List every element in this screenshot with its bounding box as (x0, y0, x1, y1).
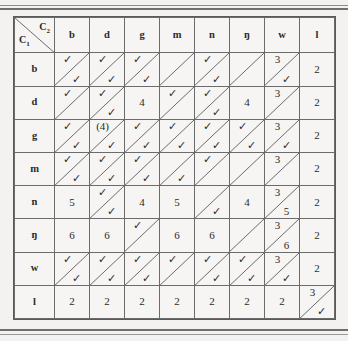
cell-upper-value: ✓ (127, 154, 148, 165)
matrix-cell-ŋ-w[interactable]: 36 (265, 219, 300, 252)
matrix-cell-l-g[interactable]: 2 (125, 285, 160, 318)
matrix-cell-d-w[interactable]: 3 (265, 86, 300, 119)
cell-diagonal-divider (230, 219, 264, 251)
matrix-cell-b-m[interactable] (160, 53, 195, 86)
cell-upper-value: ✓ (92, 254, 113, 265)
row-header-w: w (15, 252, 55, 285)
matrix-cell-b-d[interactable]: ✓✓ (90, 53, 125, 86)
cell-upper-value: ✓ (57, 121, 78, 132)
cell-upper-value: ✓ (162, 254, 183, 265)
matrix-cell-w-g[interactable]: ✓✓ (125, 252, 160, 285)
cell-upper-value: ✓ (57, 154, 78, 165)
matrix-cell-g-n[interactable]: ✓✓ (195, 119, 230, 152)
matrix-cell-g-g[interactable]: ✓✓ (125, 119, 160, 152)
matrix-cell-n-ŋ[interactable]: 4 (230, 186, 265, 219)
matrix-cell-ŋ-ŋ[interactable] (230, 219, 265, 252)
matrix-cell-ŋ-n[interactable]: 6 (195, 219, 230, 252)
cell-value: 4 (139, 196, 145, 208)
cell-lower-value: ✓ (241, 140, 262, 151)
matrix-cell-l-ŋ[interactable]: 2 (230, 285, 265, 318)
column-variable-label: C2 (39, 22, 50, 35)
cell-value: 5 (69, 196, 75, 208)
matrix-cell-d-d[interactable]: ✓✓ (90, 86, 125, 119)
matrix-cell-l-w[interactable]: 2 (265, 285, 300, 318)
matrix-cell-m-m[interactable]: ✓ (160, 152, 195, 185)
table-row: g✓✓(4)✓✓✓✓✓✓✓✓✓3✓2 (15, 119, 335, 152)
cell-upper-value: ✓ (127, 254, 148, 265)
matrix-cell-w-d[interactable]: ✓✓ (90, 252, 125, 285)
matrix-cell-ŋ-b[interactable]: 6 (55, 219, 90, 252)
matrix-cell-n-w[interactable]: 35 (265, 186, 300, 219)
cell-lower-value: ✓ (136, 273, 157, 284)
matrix-cell-m-n[interactable]: ✓ (195, 152, 230, 185)
cell-lower-value: ✓ (101, 173, 122, 184)
row-header-m: m (15, 152, 55, 185)
matrix-cell-b-w[interactable]: 3✓ (265, 53, 300, 86)
page-rule-bottom-thin (0, 334, 348, 335)
matrix-cell-g-m[interactable]: ✓✓ (160, 119, 195, 152)
matrix-cell-l-b[interactable]: 2 (55, 285, 90, 318)
matrix-cell-d-m[interactable]: ✓ (160, 86, 195, 119)
cell-lower-value: ✓ (311, 306, 332, 317)
cell-lower-value: ✓ (206, 74, 227, 85)
matrix-cell-n-l[interactable]: 2 (300, 186, 335, 219)
matrix-cell-n-g[interactable]: 4 (125, 186, 160, 219)
matrix-cell-b-n[interactable]: ✓✓ (195, 53, 230, 86)
column-header-d: d (90, 18, 125, 53)
matrix-cell-l-l[interactable]: 3✓ (300, 285, 335, 318)
cell-upper-value: ✓ (232, 121, 253, 132)
matrix-cell-d-ŋ[interactable]: 4 (230, 86, 265, 119)
matrix-cell-b-l[interactable]: 2 (300, 53, 335, 86)
cell-value: 4 (139, 96, 145, 108)
matrix-cell-g-b[interactable]: ✓✓ (55, 119, 90, 152)
matrix-cell-g-w[interactable]: 3✓ (265, 119, 300, 152)
matrix-cell-w-m[interactable]: ✓ (160, 252, 195, 285)
matrix-cell-ŋ-g[interactable]: ✓ (125, 219, 160, 252)
cell-value: 2 (209, 295, 215, 307)
matrix-cell-ŋ-m[interactable]: 6 (160, 219, 195, 252)
cell-value: 2 (104, 295, 110, 307)
matrix-cell-m-l[interactable]: 2 (300, 152, 335, 185)
matrix-cell-m-d[interactable]: ✓✓ (90, 152, 125, 185)
matrix-cell-m-b[interactable]: ✓✓ (55, 152, 90, 185)
cell-lower-value: ✓ (101, 206, 122, 217)
cell-upper-value: ✓ (127, 54, 148, 65)
matrix-cell-l-d[interactable]: 2 (90, 285, 125, 318)
cell-lower-value: ✓ (136, 74, 157, 85)
row-header-g: g (15, 119, 55, 152)
matrix-cell-w-l[interactable]: 2 (300, 252, 335, 285)
cell-upper-value: 3 (267, 187, 288, 198)
matrix-cell-w-n[interactable]: ✓✓ (195, 252, 230, 285)
matrix-cell-l-n[interactable]: 2 (195, 285, 230, 318)
cell-upper-value: 3 (267, 254, 288, 265)
table-row: w✓✓✓✓✓✓✓✓✓✓✓3✓2 (15, 252, 335, 285)
matrix-cell-n-m[interactable]: 5 (160, 186, 195, 219)
page-rule-bottom-thick (0, 329, 348, 331)
matrix-cell-ŋ-d[interactable]: 6 (90, 219, 125, 252)
matrix-cell-g-d[interactable]: (4)✓ (90, 119, 125, 152)
matrix-cell-m-ŋ[interactable] (230, 152, 265, 185)
matrix-cell-m-g[interactable]: ✓✓ (125, 152, 160, 185)
matrix-cell-l-m[interactable]: 2 (160, 285, 195, 318)
matrix-cell-b-ŋ[interactable] (230, 53, 265, 86)
matrix-cell-w-w[interactable]: 3✓ (265, 252, 300, 285)
cell-value: 2 (174, 295, 180, 307)
cell-lower-value: ✓ (276, 140, 297, 151)
matrix-cell-n-d[interactable]: ✓✓ (90, 186, 125, 219)
matrix-cell-d-n[interactable]: ✓✓ (195, 86, 230, 119)
matrix-cell-w-b[interactable]: ✓✓ (55, 252, 90, 285)
matrix-cell-w-ŋ[interactable]: ✓✓ (230, 252, 265, 285)
matrix-cell-g-ŋ[interactable]: ✓✓ (230, 119, 265, 152)
matrix-cell-n-b[interactable]: 5 (55, 186, 90, 219)
matrix-cell-d-g[interactable]: 4 (125, 86, 160, 119)
matrix-cell-ŋ-l[interactable]: 2 (300, 219, 335, 252)
matrix-cell-b-b[interactable]: ✓✓ (55, 53, 90, 86)
matrix-cell-b-g[interactable]: ✓✓ (125, 53, 160, 86)
matrix-cell-d-l[interactable]: 2 (300, 86, 335, 119)
matrix-cell-n-n[interactable]: ✓ (195, 186, 230, 219)
cell-diagonal-divider (160, 53, 194, 85)
cell-upper-value: ✓ (57, 88, 78, 99)
matrix-cell-m-w[interactable]: 3 (265, 152, 300, 185)
matrix-cell-d-b[interactable]: ✓ (55, 86, 90, 119)
matrix-cell-g-l[interactable]: 2 (300, 119, 335, 152)
